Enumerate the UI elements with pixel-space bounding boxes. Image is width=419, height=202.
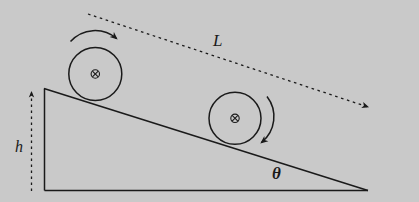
physics-diagram-inclined-plane: L h θ — [0, 0, 419, 202]
diagram-background — [0, 0, 419, 202]
height-label: h — [15, 139, 23, 155]
diagram-canvas — [0, 0, 419, 202]
angle-label: θ — [272, 165, 281, 182]
length-label: L — [213, 32, 222, 49]
